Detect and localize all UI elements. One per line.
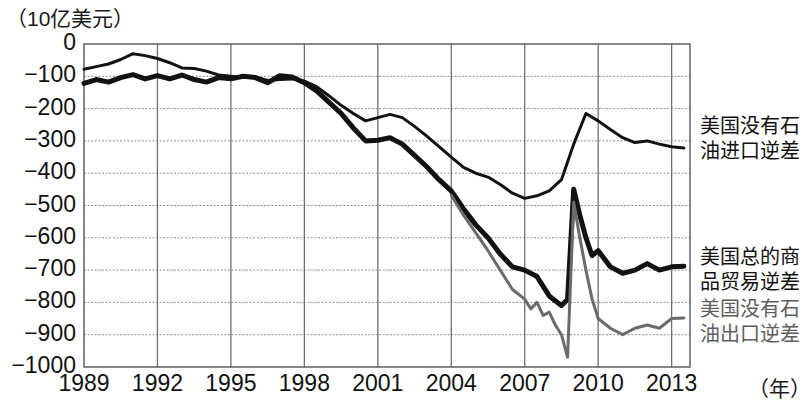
legend-entry-no-oil-imports-line1: 美国没有石 <box>700 114 800 139</box>
x-tick-label-0: 1989 <box>49 370 119 397</box>
legend-entry-no-oil-exports-line1: 美国没有石 <box>700 297 800 322</box>
legend-entry-total-goods-trade-line2: 品贸易逆差 <box>700 270 800 295</box>
legend-entry-no-oil-exports: 美国没有石 油出口逆差 <box>700 297 800 347</box>
x-tick-label-8: 2013 <box>637 370 707 397</box>
x-tick-label-4: 2001 <box>343 370 413 397</box>
series-line-1 <box>84 75 684 306</box>
x-axis-unit-label: （年） <box>748 372 809 401</box>
legend-entry-no-oil-exports-line2: 油出口逆差 <box>700 322 800 347</box>
y-tick-label-2: −200 <box>0 94 76 121</box>
legend-entry-total-goods-trade: 美国总的商 品贸易逆差 <box>700 245 800 295</box>
y-tick-label-4: −400 <box>0 158 76 185</box>
x-tick-label-6: 2007 <box>490 370 560 397</box>
chart-figure: （10亿美元） 0−100−200−300−400−500−600−700−80… <box>0 0 809 401</box>
legend-entry-total-goods-trade-line1: 美国总的商 <box>700 245 800 270</box>
y-tick-label-5: −500 <box>0 191 76 218</box>
x-tick-label-7: 2010 <box>563 370 633 397</box>
y-tick-label-1: −100 <box>0 61 76 88</box>
x-tick-label-5: 2004 <box>416 370 486 397</box>
y-tick-label-3: −300 <box>0 126 76 153</box>
line-chart-canvas <box>0 0 809 401</box>
y-tick-label-6: −600 <box>0 223 76 250</box>
y-tick-label-7: −700 <box>0 255 76 282</box>
legend-entry-no-oil-imports: 美国没有石 油进口逆差 <box>700 114 800 164</box>
x-tick-label-1: 1992 <box>122 370 192 397</box>
y-tick-label-0: 0 <box>0 29 76 56</box>
x-tick-label-3: 1998 <box>269 370 339 397</box>
x-tick-label-2: 1995 <box>196 370 266 397</box>
y-tick-label-9: −900 <box>0 320 76 347</box>
legend-entry-no-oil-imports-line2: 油进口逆差 <box>700 139 800 164</box>
y-tick-label-8: −800 <box>0 287 76 314</box>
